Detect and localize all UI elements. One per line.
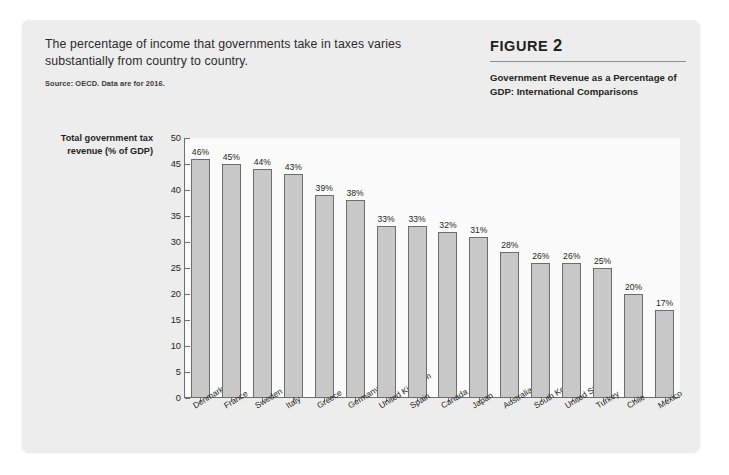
bar-column: 39% [315,181,334,398]
y-axis-tick-mark [185,190,190,191]
bar-column: 26% [562,249,581,398]
source-note: Source: OECD. Data are for 2016. [45,79,465,88]
y-axis-tick-mark [185,138,190,139]
y-axis-tick-label: 5 [141,367,181,377]
bar-column: 28% [500,238,519,398]
chart-area: Total government tax revenue (% of GDP) … [45,108,681,444]
y-axis-tick-label: 30 [141,237,181,247]
bar-rect [500,252,519,398]
bar-rect [222,164,241,398]
y-axis-tick-label: 15 [141,315,181,325]
y-axis-tick-label: 0 [141,393,181,403]
y-axis-tick-mark [185,398,190,399]
y-axis-tick-label: 10 [141,341,181,351]
bar-value-label: 39% [316,183,333,193]
y-axis-tick-label: 50 [141,133,181,143]
bar-column: 43% [284,160,303,398]
y-axis-tick-mark [185,372,190,373]
bar-column: 46% [191,145,210,398]
figure-subtitle: Government Revenue as a Percentage of GD… [490,71,686,98]
bar-column: 20% [624,280,643,398]
bar-value-label: 26% [532,251,549,261]
bar-rect [562,263,581,398]
y-axis-tick-mark [185,294,190,295]
bar-value-label: 20% [625,282,642,292]
bar-value-label: 25% [594,256,611,266]
figure-divider [490,61,686,62]
y-axis-tick-label: 40 [141,185,181,195]
intro-block: The percentage of income that government… [45,36,465,88]
bar-rect [624,294,643,398]
bar-column: 25% [593,254,612,398]
bar-value-label: 45% [223,152,240,162]
bar-rect [346,200,365,398]
bar-column: 38% [346,186,365,398]
bar-rect [655,310,674,398]
bar-rect [377,226,396,398]
bar-value-label: 17% [656,298,673,308]
bar-rect [531,263,550,398]
bar-column: 26% [531,249,550,398]
figure-title-block: FIGURE 2 Government Revenue as a Percent… [490,36,686,98]
bar-column: 32% [438,218,457,398]
bar-rect [284,174,303,398]
bar-column: 33% [377,212,396,398]
bar-value-label: 46% [192,147,209,157]
bar-column: 44% [253,155,272,398]
bar-value-label: 31% [470,225,487,235]
y-axis-tick-mark [185,346,190,347]
figure-number: 2 [553,36,562,54]
intro-text: The percentage of income that government… [45,36,465,70]
y-axis-tick-mark [185,242,190,243]
bar-rect [191,159,210,398]
y-axis-tick-mark [185,164,190,165]
bar-column: 31% [469,223,488,398]
y-axis-tick-label: 35 [141,211,181,221]
figure-label-word: FIGURE [490,38,548,54]
figure-header: The percentage of income that government… [22,20,700,108]
bar-rect [315,195,334,398]
bar-rect [593,268,612,398]
bar-rect [438,232,457,398]
bar-value-label: 26% [563,251,580,261]
bar-column: 17% [655,296,674,398]
bar-value-label: 44% [254,157,271,167]
y-axis-tick-label: 25 [141,263,181,273]
figure-card: The percentage of income that government… [22,20,700,452]
bar-value-label: 33% [377,214,394,224]
y-axis-tick-label: 45 [141,159,181,169]
bar-value-label: 43% [285,162,302,172]
y-axis-tick-mark [185,268,190,269]
bar-column: 45% [222,150,241,398]
bar-column: 33% [408,212,427,398]
bar-value-label: 28% [501,240,518,250]
y-axis-tick-mark [185,320,190,321]
y-axis-tick-label: 20 [141,289,181,299]
figure-label: FIGURE 2 [490,36,686,55]
bar-rect [469,237,488,398]
bar-value-label: 38% [347,188,364,198]
bar-rect [253,169,272,398]
bar-rect [408,226,427,398]
y-axis-tick-mark [185,216,190,217]
bar-value-label: 32% [439,220,456,230]
bar-value-label: 33% [408,214,425,224]
